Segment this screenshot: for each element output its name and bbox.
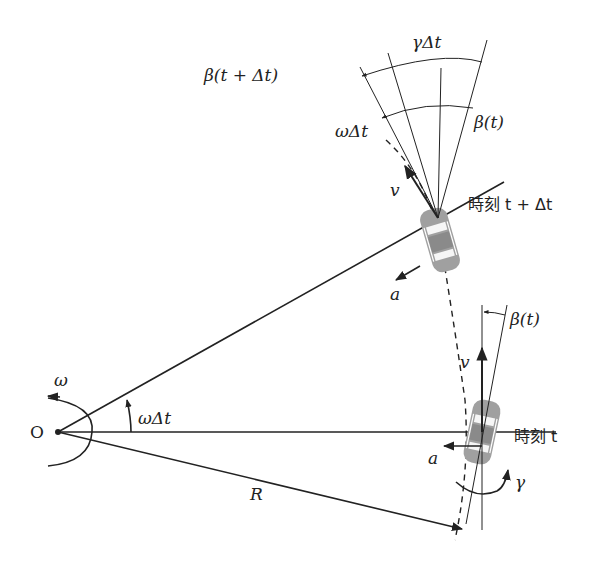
beta-t-plus-dt-label: β(t + Δt) <box>203 65 278 85</box>
gamma-dt-arc <box>362 58 482 76</box>
car-time-t-plus-dt: v γΔt β(t) β(t + Δt) ωΔt 時刻 t + Δt a <box>203 32 552 304</box>
omega-dt-upper-label: ωΔt <box>335 121 368 141</box>
car-time-t: β(t) v 時刻 t a γ <box>428 305 557 530</box>
velocity-arrow-t-dt <box>405 166 438 218</box>
gamma-label: γ <box>515 472 526 492</box>
radius-arrow <box>58 432 462 529</box>
beta-arc-t <box>484 312 505 315</box>
velocity-t-label: v <box>460 352 470 372</box>
omega-label: ω <box>54 370 68 390</box>
car-icon <box>418 205 463 274</box>
vertical-ref-line-dt <box>438 68 441 218</box>
omega-dt-origin-label: ωΔt <box>138 408 171 428</box>
beta-t-upper-label: β(t) <box>473 112 504 132</box>
velocity-t-dt-label: v <box>390 180 400 200</box>
omega-dt-arc <box>127 400 131 432</box>
omega-arrow-icon <box>48 396 60 397</box>
omega-dt-arc-upper <box>382 106 473 118</box>
origin-label: O <box>30 422 44 442</box>
accel-t-dt-label: a <box>390 284 400 304</box>
accel-t-label: a <box>428 448 438 468</box>
kinematics-diagram: O R ω ωΔt β(t) v 時刻 t a γ v <box>0 0 603 581</box>
origin-group: O R ω ωΔt <box>30 182 556 529</box>
time-t-label: 時刻 t <box>514 427 557 446</box>
gamma-dt-label: γΔt <box>412 32 441 52</box>
beta-t-lower-label: β(t) <box>509 309 540 329</box>
time-t-plus-dt-label: 時刻 t + Δt <box>468 195 552 214</box>
accel-arrow-t-dt <box>396 266 420 280</box>
radius-label: R <box>249 484 263 504</box>
